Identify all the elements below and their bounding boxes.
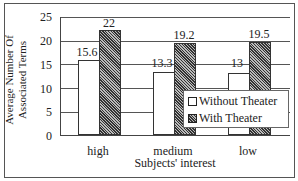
legend-item-without-theater: Without Theater [188,94,277,108]
value-label-medium-without: 13.3 [147,56,177,71]
legend: Without Theater With Theater [183,90,289,128]
y-axis-label-line2: Associated Terms [16,15,29,145]
value-label-high-with: 22 [94,16,124,31]
y-axis-label-line1: Average Number Of [3,15,16,145]
bar-high-with-theater [99,30,121,135]
y-tick-25: 25 [30,11,52,23]
bar-high-without-theater [78,60,100,135]
y-tick-0: 0 [30,130,52,142]
x-axis-label: Subjects' interest [115,156,235,171]
y-tick-15: 15 [30,59,52,71]
value-label-medium-with: 19.2 [169,28,199,43]
white-swatch-icon [188,97,197,106]
legend-label-with: With Theater [199,111,262,125]
legend-label-without: Without Theater [199,94,277,108]
y-tick-10: 10 [30,83,52,95]
y-tick-5: 5 [30,106,52,118]
value-label-low-with: 19.5 [244,27,274,42]
legend-item-with-theater: With Theater [188,111,262,125]
y-tick-20: 20 [30,35,52,47]
value-label-low-without: 13 [222,56,252,71]
bar-medium-without-theater [153,72,175,135]
hatched-swatch-icon [188,114,197,123]
value-label-high-without: 15.6 [72,45,102,60]
